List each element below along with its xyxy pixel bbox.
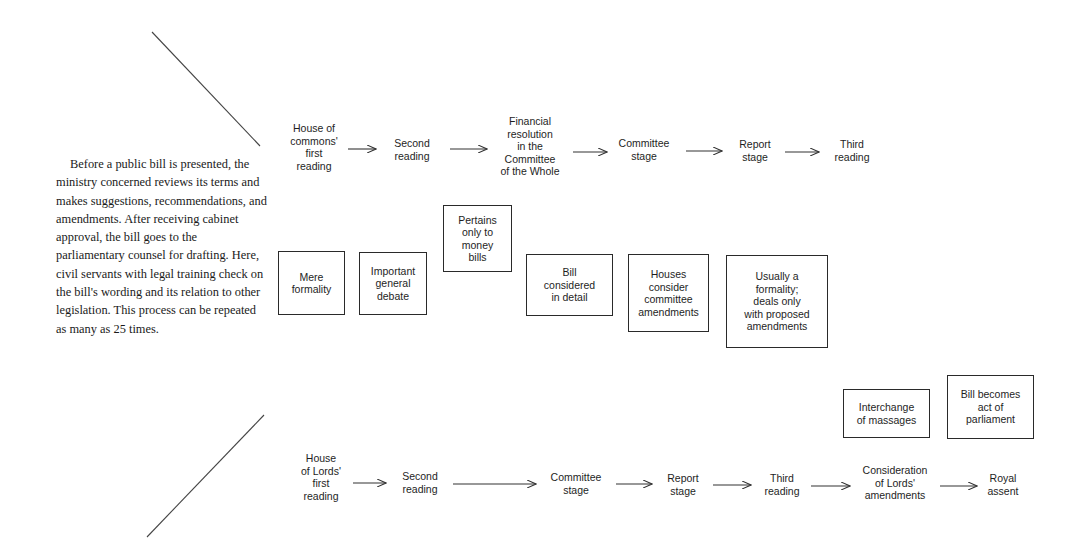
commons-financial-resolution: Financial resolution in the Committee of…: [488, 115, 572, 178]
intro-paragraph: Before a public bill is presented, the m…: [56, 155, 268, 338]
commons-committee-stage: Committee stage: [608, 137, 680, 162]
bracket-line-bottom: [147, 415, 264, 537]
commons-second-reading: Second reading: [382, 137, 442, 162]
note-mere-formality: Mere formality: [278, 251, 345, 315]
note-bill-becomes-act: Bill becomes act of parliament: [947, 375, 1034, 439]
note-important-general-debate: Important general debate: [359, 252, 427, 315]
lords-report-stage: Report stage: [656, 472, 710, 497]
bracket-line-top: [152, 32, 260, 146]
lords-first-reading: House of Lords' first reading: [290, 452, 352, 502]
note-interchange-messages: Interchange of massages: [843, 389, 930, 438]
lords-third-reading: Third reading: [754, 472, 810, 497]
lords-committee-stage: Committee stage: [540, 471, 612, 496]
commons-report-stage: Report stage: [727, 138, 783, 163]
lords-second-reading: Second reading: [390, 470, 450, 495]
note-houses-consider-amendments: Houses consider committee amendments: [628, 254, 709, 332]
lords-consideration-amendments: Consideration of Lords' amendments: [852, 464, 938, 502]
note-pertains-money-bills: Pertains only to money bills: [443, 205, 512, 272]
commons-third-reading: Third reading: [822, 138, 882, 163]
commons-first-reading: House of commons' first reading: [280, 122, 348, 172]
lords-royal-assent: Royal assent: [980, 472, 1026, 497]
note-bill-considered-detail: Bill considered in detail: [526, 254, 613, 316]
note-usually-formality: Usually a formality; deals only with pro…: [726, 255, 828, 348]
